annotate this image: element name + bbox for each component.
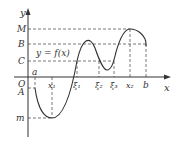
y-level-C: C [18, 56, 25, 66]
x-point-b: b [143, 80, 149, 90]
y-level-A: A [17, 87, 25, 97]
x-axis-label: x [164, 82, 170, 93]
function-label: y = f(x) [35, 48, 70, 58]
x-point-xi2: ξ₂ [95, 81, 103, 90]
x-point-xi1: ξ₁ [73, 81, 81, 90]
x-point-x2: x₂ [126, 81, 134, 90]
axes [14, 8, 171, 137]
y-level-M: M [16, 24, 27, 34]
dashed-guides [28, 29, 146, 118]
x-point-a: a [32, 67, 37, 77]
x-point-x1: x₁ [48, 81, 56, 90]
y-level-m: m [16, 113, 25, 123]
y-level-B: B [17, 39, 25, 49]
function-graph-diagram: y x O y = f(x) M B C A m a x₁ ξ₁ ξ₂ ξ₃ x… [0, 0, 176, 143]
x-point-xi3: ξ₃ [110, 81, 118, 90]
y-axis-label: y [19, 7, 26, 18]
